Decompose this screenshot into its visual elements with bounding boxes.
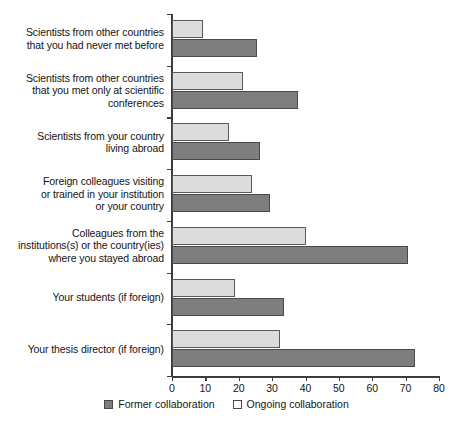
category-label-line: or your country — [0, 200, 164, 213]
category-axis-labels: Scientists from other countriesthat you … — [0, 14, 168, 376]
legend-swatch-former-icon — [104, 400, 113, 409]
bar-ongoing-collaboration — [172, 20, 203, 38]
category-label-line: where you stayed abroad — [0, 252, 164, 265]
category-label-line: or trained in your institution — [0, 188, 164, 201]
x-axis-tick-label: 70 — [400, 382, 412, 394]
x-axis-tick-label: 0 — [169, 382, 175, 394]
category-label: Foreign colleagues visitingor trained in… — [0, 175, 164, 213]
x-axis-tick-label: 30 — [266, 382, 278, 394]
category-label: Colleagues from theinstitutions(s) or th… — [0, 227, 164, 265]
plot-area — [172, 14, 439, 376]
category-label: Scientists from your countryliving abroa… — [0, 130, 164, 155]
x-axis-tick-label: 60 — [366, 382, 378, 394]
x-axis-tick-label: 40 — [300, 382, 312, 394]
x-axis-tick — [372, 376, 373, 381]
category-label: Your students (if foreign) — [0, 291, 164, 304]
x-axis-tick — [306, 376, 307, 381]
bar-group — [172, 324, 439, 376]
bar-ongoing-collaboration — [172, 123, 229, 141]
legend-swatch-ongoing-icon — [233, 400, 242, 409]
category-label: Your thesis director (if foreign) — [0, 343, 164, 356]
x-axis-tick — [439, 376, 440, 381]
x-axis-tick — [239, 376, 240, 381]
x-axis-tick — [406, 376, 407, 381]
x-axis-tick — [172, 376, 173, 381]
bar-ongoing-collaboration — [172, 175, 252, 193]
bar-group — [172, 169, 439, 221]
category-label-line: that you had never met before — [0, 39, 164, 52]
x-axis-tick — [339, 376, 340, 381]
category-label-line: Scientists from your country — [0, 130, 164, 143]
category-label-line: institutions(s) or the country(ies) — [0, 239, 164, 252]
chart-legend: Former collaborationOngoing collaboratio… — [0, 398, 453, 410]
x-axis-tick-label: 20 — [233, 382, 245, 394]
x-axis-tick-label: 80 — [433, 382, 445, 394]
category-label: Scientists from other countriesthat you … — [0, 26, 164, 51]
category-label-line: Foreign colleagues visiting — [0, 175, 164, 188]
bar-former-collaboration — [172, 349, 415, 367]
bar-ongoing-collaboration — [172, 330, 280, 348]
category-label-line: conferences — [0, 97, 164, 110]
x-axis-tick — [205, 376, 206, 381]
category-label-line: Your thesis director (if foreign) — [0, 343, 164, 356]
legend-label: Former collaboration — [118, 398, 214, 410]
category-label-line: Scientists from other countries — [0, 72, 164, 85]
bar-ongoing-collaboration — [172, 279, 235, 297]
bar-former-collaboration — [172, 91, 298, 109]
bar-ongoing-collaboration — [172, 227, 306, 245]
category-label: Scientists from other countriesthat you … — [0, 72, 164, 110]
bar-group — [172, 14, 439, 66]
bar-former-collaboration — [172, 298, 284, 316]
x-axis-tick-label: 50 — [333, 382, 345, 394]
legend-item: Former collaboration — [104, 398, 214, 410]
category-label-line: that you met only at scientific — [0, 84, 164, 97]
x-axis-tick-label: 10 — [200, 382, 212, 394]
bar-former-collaboration — [172, 39, 257, 57]
bar-ongoing-collaboration — [172, 72, 243, 90]
category-label-line: Scientists from other countries — [0, 26, 164, 39]
bar-former-collaboration — [172, 194, 270, 212]
bar-group — [172, 221, 439, 273]
bar-group — [172, 66, 439, 118]
bar-chart: Scientists from other countriesthat you … — [0, 0, 453, 428]
category-label-line: living abroad — [0, 142, 164, 155]
x-axis-tick — [272, 376, 273, 381]
legend-item: Ongoing collaboration — [233, 398, 349, 410]
bar-group — [172, 273, 439, 325]
category-label-line: Colleagues from the — [0, 227, 164, 240]
bar-group — [172, 117, 439, 169]
legend-label: Ongoing collaboration — [247, 398, 349, 410]
bar-former-collaboration — [172, 246, 408, 264]
bar-former-collaboration — [172, 142, 260, 160]
category-label-line: Your students (if foreign) — [0, 291, 164, 304]
